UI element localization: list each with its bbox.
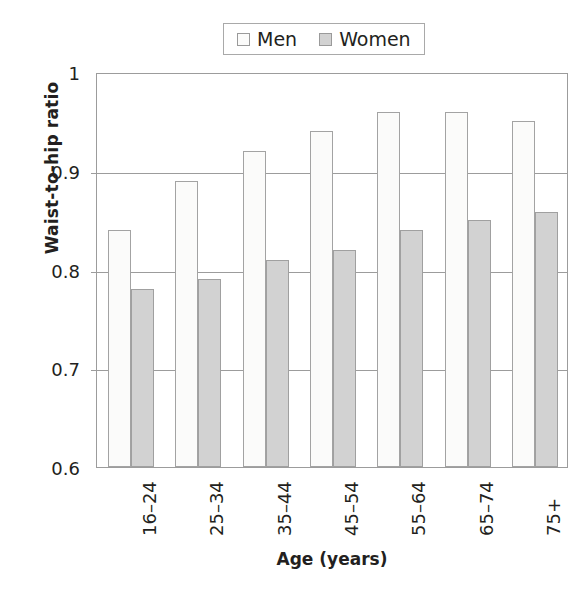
legend-label-men: Men xyxy=(257,30,297,49)
legend-entry-men: Men xyxy=(237,30,297,49)
bar-women xyxy=(400,230,423,467)
legend-label-women: Women xyxy=(339,30,411,49)
y-axis-tick-labels: 0.60.70.80.91 xyxy=(36,0,88,591)
bar-group xyxy=(445,74,491,467)
y-axis-tick-label: 0.8 xyxy=(36,260,88,281)
x-axis-tick-label: 45–54 xyxy=(341,481,362,536)
bar-women xyxy=(266,260,289,467)
bar-men xyxy=(243,151,266,467)
plot-area xyxy=(96,73,568,468)
bar-group xyxy=(512,74,558,467)
x-axis-title: Age (years) xyxy=(96,549,568,569)
bar-men xyxy=(310,131,333,467)
waist-to-hip-ratio-bar-chart: Men Women Waist-to-hip ratio 0.60.70.80.… xyxy=(0,0,587,591)
bar-men xyxy=(175,181,198,467)
x-axis-tick-label: 65–74 xyxy=(476,481,497,536)
bar-women xyxy=(535,212,558,467)
bar-men xyxy=(108,230,131,467)
bar-group xyxy=(243,74,289,467)
bar-men xyxy=(445,112,468,468)
y-axis-tick-label: 0.6 xyxy=(36,458,88,479)
bar-women xyxy=(131,289,154,467)
x-axis-tick-label: 25–34 xyxy=(206,481,227,536)
bar-men xyxy=(512,121,535,467)
bar-women xyxy=(198,279,221,467)
bar-women xyxy=(468,220,491,467)
bar-series-container xyxy=(97,74,567,467)
chart-legend: Men Women xyxy=(223,23,425,55)
y-axis-tick-label: 0.7 xyxy=(36,359,88,380)
x-axis-tick-label: 35–44 xyxy=(274,481,295,536)
bar-men xyxy=(377,112,400,468)
bar-group xyxy=(175,74,221,467)
x-axis-tick-label: 55–64 xyxy=(408,481,429,536)
y-axis-tick-label: 0.9 xyxy=(36,161,88,182)
bar-group xyxy=(108,74,154,467)
legend-swatch-men-icon xyxy=(237,33,250,46)
x-axis-tick-label: 16–24 xyxy=(139,481,160,536)
bar-group xyxy=(377,74,423,467)
y-axis-tick-label: 1 xyxy=(36,63,88,84)
bar-women xyxy=(333,250,356,467)
legend-swatch-women-icon xyxy=(319,33,332,46)
x-axis-tick-label: 75+ xyxy=(543,498,564,536)
x-axis-tick-labels: 16–2425–3435–4445–5455–6465–7475+ xyxy=(96,468,568,543)
bar-group xyxy=(310,74,356,467)
legend-entry-women: Women xyxy=(319,30,411,49)
